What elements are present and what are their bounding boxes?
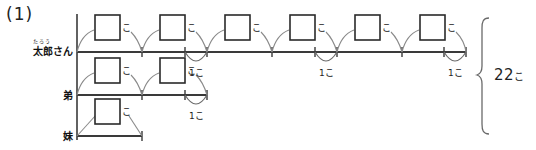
- total-value: 22: [494, 66, 514, 84]
- worksheet-diagram: (1): [0, 0, 536, 150]
- total-unit: こ: [514, 71, 525, 82]
- row-imouto-box-unit-1: こ: [122, 105, 131, 118]
- total-label: 22こ: [494, 66, 525, 84]
- row-imouto-boxes: [0, 0, 536, 150]
